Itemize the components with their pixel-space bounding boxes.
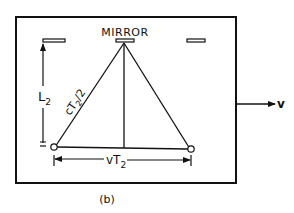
mirror-bar-center <box>116 39 134 42</box>
hypotenuse-label: cT2/2 <box>62 87 90 119</box>
mirror-bar-left <box>43 39 65 42</box>
figure-caption: (b) <box>99 193 115 206</box>
base-line <box>57 147 188 149</box>
mirror-label: MIRROR <box>101 26 148 39</box>
mirror-bar-right <box>187 39 205 42</box>
velocity-label: v <box>277 97 285 111</box>
start-position-marker <box>51 144 57 150</box>
base-label: vT2 <box>106 153 126 170</box>
light-path-up <box>55 43 124 147</box>
end-position-marker <box>188 146 194 152</box>
light-path-down <box>124 43 190 149</box>
light-clock-diagram: MIRROR L2 cT2/2 vT2 v (b) <box>0 0 294 213</box>
